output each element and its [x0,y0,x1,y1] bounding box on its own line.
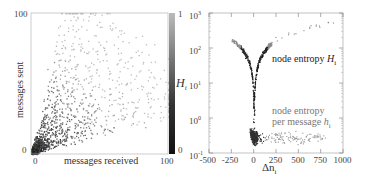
colorbar-tick-max: 1 [178,10,183,19]
legend-node-entropy: node entropy Hi [272,53,336,67]
left-x-axis-label: messages received [64,155,138,166]
right-y-tick: 102 [189,44,201,56]
right-x-tick: 0 [251,156,256,165]
right-x-tick: -500 [199,156,216,165]
left-x-tick-min: 0 [33,157,38,166]
right-y-tick: 100 [189,114,201,126]
left-y-tick-max: 100 [14,10,28,19]
right-x-tick: 750 [313,156,327,165]
legend-entropy-per-message: node entropyper message hi [272,105,331,132]
right-y-tick: 101 [189,79,201,91]
left-x-tick-max: 100 [160,157,174,166]
right-x-tick: 1000 [333,156,351,165]
left-y-tick-min: 0 [22,146,27,155]
right-x-tick: -250 [222,156,239,165]
colorbar-label: Hi [176,76,187,92]
colorbar [169,13,175,154]
right-x-axis-label: Δni [262,161,277,176]
right-x-tick: 500 [291,156,305,165]
left-y-axis-label: messages sent [14,62,25,118]
right-y-tick: 103 [189,9,201,21]
colorbar-tick-min: 0 [178,146,183,155]
